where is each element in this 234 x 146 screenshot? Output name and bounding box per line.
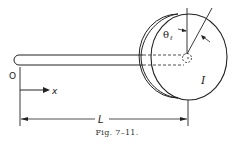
angle-label: θ: [163, 29, 169, 40]
figure-caption: Fig. 7–11.: [0, 128, 234, 137]
torsion-rod-diagram: θ ℓ I O x L: [0, 0, 234, 146]
rod: [14, 55, 184, 65]
length-label: L: [98, 114, 104, 125]
length-dimension: [21, 100, 188, 126]
inertia-label: I: [200, 74, 206, 87]
x-axis-label: x: [51, 86, 58, 96]
disc: [139, 14, 227, 100]
origin-label: O: [9, 71, 16, 81]
angle-subscript: ℓ: [170, 34, 173, 41]
x-axis-arrow: [20, 67, 50, 126]
